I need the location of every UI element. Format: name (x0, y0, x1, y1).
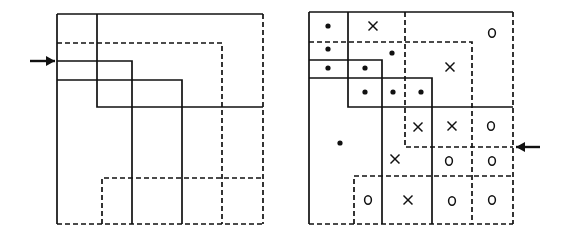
circle-marker-icon (449, 197, 456, 205)
dashed-boundary (405, 12, 513, 147)
cross-marker-icon (448, 122, 457, 131)
dot-marker-icon (390, 89, 395, 94)
circle-marker-icon (489, 196, 496, 204)
circle-marker-icon (446, 157, 453, 165)
dashed-boundary (57, 43, 222, 224)
dot-marker-icon (325, 65, 330, 70)
dot-marker-icon (325, 23, 330, 28)
dot-marker-icon (362, 65, 367, 70)
dot-marker-icon (325, 46, 330, 51)
solid-boundary (57, 61, 132, 224)
cross-marker-icon (369, 22, 378, 31)
circle-marker-icon (365, 196, 372, 204)
left-panel (30, 14, 263, 224)
cross-marker-icon (414, 123, 423, 132)
dot-marker-icon (389, 50, 394, 55)
dot-marker-icon (418, 89, 423, 94)
cross-marker-icon (404, 196, 413, 205)
arrow-icon (516, 142, 540, 152)
circle-marker-icon (489, 157, 496, 165)
solid-boundary (57, 80, 182, 224)
arrow-icon (30, 56, 55, 66)
cross-marker-icon (446, 63, 455, 72)
region-diagram (0, 0, 569, 245)
right-panel (309, 12, 540, 224)
dot-marker-icon (362, 89, 367, 94)
diagram-canvas (0, 0, 569, 245)
cross-marker-icon (391, 155, 400, 164)
circle-marker-icon (488, 122, 495, 130)
dot-marker-icon (337, 140, 342, 145)
circle-marker-icon (489, 29, 496, 37)
